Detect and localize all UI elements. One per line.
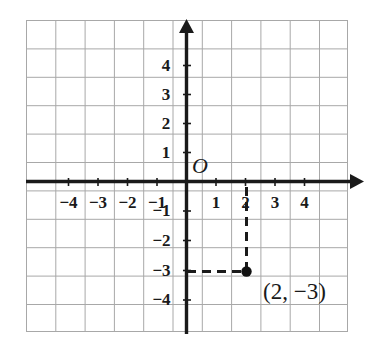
x-tick-label-neg2: −2 <box>115 194 140 211</box>
y-tick-label-pos3: 3 <box>157 86 175 103</box>
y-tick-label-neg2: −2 <box>149 232 174 249</box>
x-axis-arrowhead <box>350 174 364 189</box>
x-tick-label-pos1: 1 <box>207 194 225 211</box>
y-tick-label-neg3: −3 <box>149 262 174 279</box>
x-tick-label-neg3: −3 <box>86 194 111 211</box>
x-tick-label-neg4: −4 <box>56 194 81 211</box>
y-tick-label-neg4: −4 <box>149 291 174 308</box>
point-coordinate-label: (2, −3) <box>263 280 326 303</box>
x-tick-label-pos3: 3 <box>266 194 284 211</box>
x-tick-label-pos4: 4 <box>296 194 314 211</box>
y-tick-label-pos1: 1 <box>157 144 175 161</box>
y-tick-label-pos4: 4 <box>157 57 175 74</box>
y-tick-label-neg1: −1 <box>149 202 174 219</box>
coordinate-plane-figure: −4 −3 −2 −1 1 2 3 4 4 3 2 1 −1 −2 −3 −4 … <box>0 0 366 354</box>
data-point-marker <box>241 266 251 276</box>
x-tick-label-pos2: 2 <box>237 194 255 211</box>
y-tick-label-pos2: 2 <box>157 115 175 132</box>
origin-label: O <box>192 155 208 177</box>
